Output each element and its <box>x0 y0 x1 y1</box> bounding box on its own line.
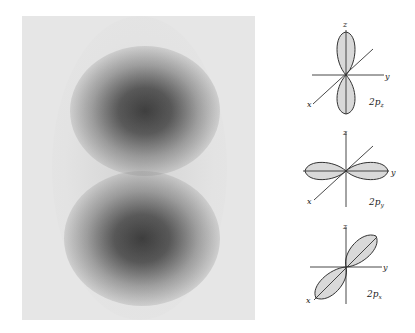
2py-label: 2py <box>368 197 385 209</box>
orbital-2py-diagram: z y x 2py <box>303 128 396 209</box>
orbital-diagrams: z y x 2pz z y x 2py z y x 2px <box>295 0 415 333</box>
node-haze <box>52 16 227 320</box>
2px-upper-lobe <box>345 235 377 267</box>
2px-z-label: z <box>342 222 348 231</box>
2pz-x-label: x <box>307 100 312 109</box>
2pz-z-label: z <box>342 20 348 29</box>
orbital-2px-diagram: z y x 2px <box>306 222 388 305</box>
electron-density-image <box>22 16 255 320</box>
2pz-label: 2pz <box>368 97 385 108</box>
orbital-2pz-diagram: z y x 2pz <box>307 20 390 114</box>
2px-x-label: x <box>306 296 311 305</box>
2px-label: 2px <box>366 289 383 300</box>
2pz-y-label: y <box>384 72 390 81</box>
2py-y-label: y <box>390 168 396 177</box>
2px-y-label: y <box>382 263 388 272</box>
2py-z-label: z <box>342 128 348 137</box>
2py-x-label: x <box>307 197 312 206</box>
